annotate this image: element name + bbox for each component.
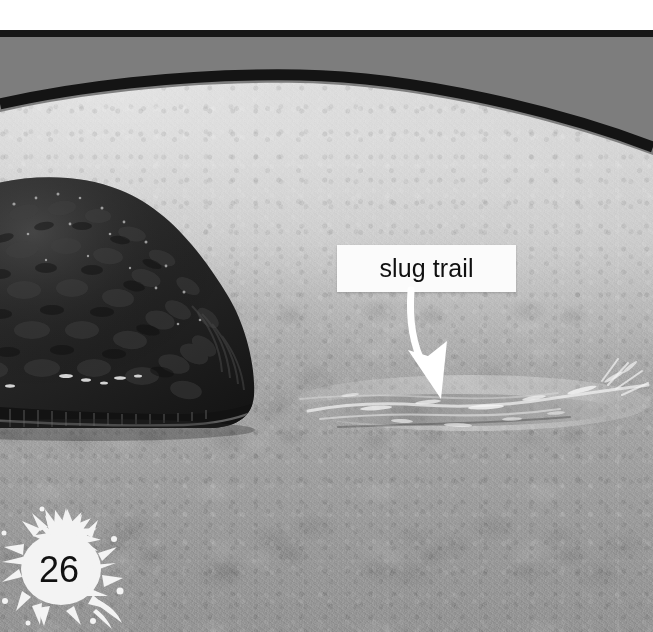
splat-shape-icon xyxy=(0,505,126,632)
top-rule-line xyxy=(0,30,653,37)
page-number-badge: 26 xyxy=(0,505,126,632)
book-page: slug trail xyxy=(0,0,653,632)
top-margin xyxy=(0,0,653,30)
callout-label-text: slug trail xyxy=(379,256,473,281)
callout-label-box[interactable]: slug trail xyxy=(337,245,516,292)
